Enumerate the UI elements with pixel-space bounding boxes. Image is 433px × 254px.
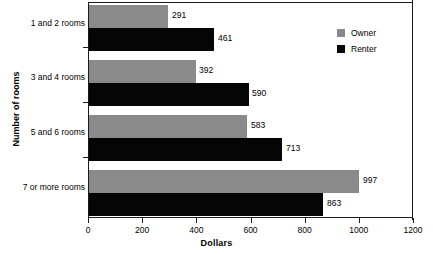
- x-axis-tick-3: [251, 218, 252, 223]
- x-axis-tick-label-0: 0: [86, 225, 91, 235]
- x-axis-title: Dollars: [0, 238, 433, 248]
- legend-item-owner: Owner: [337, 26, 415, 39]
- y-axis-tick-1: [83, 102, 88, 103]
- bar-value-owner-3: 997: [363, 175, 377, 185]
- bar-value-owner-0: 291: [172, 10, 186, 20]
- bar-chart: 1 and 2 rooms 3 and 4 rooms 5 and 6 room…: [0, 0, 433, 254]
- bar-owner-1: [89, 60, 195, 83]
- x-axis-tick-6: [413, 218, 414, 223]
- y-axis-title: Number of rooms: [11, 49, 21, 169]
- bar-owner-2: [89, 115, 247, 138]
- y-category-label-3: 7 or more rooms: [23, 182, 85, 192]
- legend-swatch-icon-renter: [337, 45, 345, 53]
- x-axis-tick-label-3: 600: [243, 225, 257, 235]
- legend-label-owner: Owner: [351, 28, 376, 38]
- x-axis-tick-5: [359, 218, 360, 223]
- x-axis-tick-1: [142, 218, 143, 223]
- bar-renter-0: [89, 28, 214, 51]
- y-axis-tick-2: [83, 157, 88, 158]
- y-category-label-2: 5 and 6 rooms: [31, 127, 85, 137]
- x-axis-tick-2: [196, 218, 197, 223]
- bar-value-renter-0: 461: [218, 33, 232, 43]
- y-axis-tick-0: [83, 47, 88, 48]
- x-axis-tick-label-4: 800: [298, 225, 312, 235]
- bar-renter-3: [89, 193, 323, 216]
- bar-value-owner-2: 583: [251, 120, 265, 130]
- bar-owner-3: [89, 170, 359, 193]
- x-axis-tick-label-1: 200: [135, 225, 149, 235]
- bar-renter-1: [89, 83, 249, 106]
- bar-owner-0: [89, 5, 168, 28]
- x-axis-tick-label-2: 400: [189, 225, 203, 235]
- bar-value-owner-1: 392: [199, 65, 213, 75]
- legend-item-renter: Renter: [337, 42, 415, 55]
- bar-renter-2: [89, 138, 282, 161]
- bar-value-renter-2: 713: [286, 143, 300, 153]
- legend-swatch-icon-owner: [337, 29, 345, 37]
- y-category-label-0: 1 and 2 rooms: [31, 18, 85, 28]
- legend: Owner Renter: [337, 26, 415, 58]
- x-axis-tick-0: [88, 218, 89, 223]
- x-axis-tick-label-6: 1200: [404, 225, 423, 235]
- bar-value-renter-1: 590: [252, 88, 266, 98]
- bar-value-renter-3: 863: [327, 198, 341, 208]
- y-category-label-1: 3 and 4 rooms: [31, 72, 85, 82]
- x-axis-tick-label-5: 1000: [349, 225, 368, 235]
- legend-label-renter: Renter: [351, 44, 377, 54]
- x-axis-tick-4: [305, 218, 306, 223]
